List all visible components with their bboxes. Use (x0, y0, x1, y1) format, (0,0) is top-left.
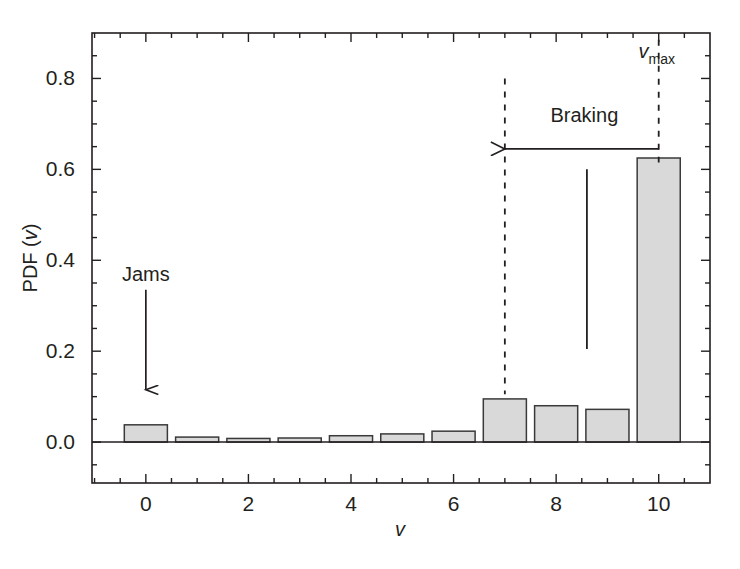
bar-1 (176, 437, 219, 442)
x-tick-label-6: 6 (448, 492, 460, 515)
y-tick-label-0.4: 0.4 (46, 248, 76, 271)
y-axis-title-group: PDF (v) (19, 224, 41, 293)
y-tick-label-0.0: 0.0 (46, 430, 75, 453)
vmax-subscript: max (648, 51, 674, 67)
bar-10 (637, 158, 680, 442)
y-tick-label-0.8: 0.8 (46, 66, 75, 89)
bar-6 (432, 431, 475, 442)
braking-annotation-label: Braking (550, 104, 618, 126)
x-tick-label-4: 4 (345, 492, 357, 515)
pdf-velocity-bar-chart: 0246810 0.00.20.40.60.8 Jams Braking vma… (0, 0, 740, 569)
x-tick-label-8: 8 (550, 492, 562, 515)
bar-7 (483, 399, 526, 442)
y-axis-title-prefix: PDF ( (19, 240, 41, 293)
x-tick-label-0: 0 (140, 492, 152, 515)
bar-9 (586, 409, 629, 442)
bar-8 (535, 406, 578, 442)
y-axis-title-suffix: ) (19, 224, 41, 231)
y-tick-label-0.2: 0.2 (46, 339, 75, 362)
bar-4 (329, 436, 372, 442)
y-axis-title: PDF (v) (19, 224, 41, 293)
bar-5 (381, 434, 424, 442)
chart-figure: 0246810 0.00.20.40.60.8 Jams Braking vma… (0, 0, 740, 569)
x-tick-label-10: 10 (647, 492, 670, 515)
jams-annotation-label: Jams (122, 263, 170, 285)
x-axis-title: v (395, 518, 406, 540)
bar-0 (124, 425, 167, 442)
y-tick-label-0.6: 0.6 (46, 157, 75, 180)
x-tick-label-2: 2 (243, 492, 255, 515)
